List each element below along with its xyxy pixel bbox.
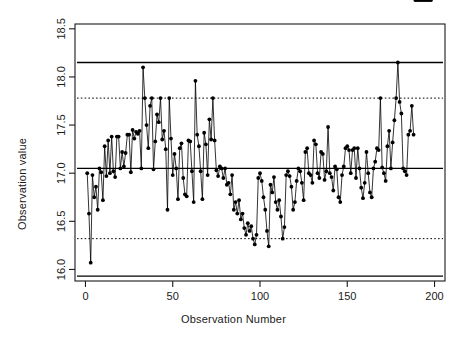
data-point-marker [300, 181, 304, 185]
data-point-marker [98, 166, 102, 170]
data-point-marker [281, 237, 285, 241]
data-point-marker [148, 104, 152, 108]
data-point-marker [108, 171, 112, 175]
x-tick-label: 50 [167, 290, 179, 302]
y-tick-label: 16.5 [55, 211, 67, 232]
data-point-marker [211, 96, 215, 100]
data-point-marker [260, 179, 264, 183]
data-point-marker [335, 167, 339, 171]
data-point-marker [96, 208, 100, 212]
data-point-marker [321, 152, 325, 156]
data-point-marker [396, 61, 400, 65]
data-point-marker [185, 194, 189, 198]
data-point-marker [232, 208, 236, 212]
data-point-marker [235, 212, 239, 216]
data-point-marker [324, 169, 328, 173]
data-point-marker [326, 125, 330, 129]
data-point-marker [276, 208, 280, 212]
data-point-marker [206, 173, 210, 177]
data-point-marker [180, 141, 184, 145]
data-point-marker [288, 174, 292, 178]
data-point-marker [317, 176, 321, 180]
data-point-marker [365, 150, 369, 154]
data-point-marker [145, 123, 149, 127]
data-point-marker [85, 171, 89, 175]
data-point-marker [171, 173, 175, 177]
data-point-marker [159, 96, 163, 100]
plot-area: 16.016.517.017.518.018.5050100150200 [0, 0, 467, 347]
data-point-marker [138, 129, 142, 133]
data-point-marker [234, 200, 238, 204]
data-point-marker [99, 170, 103, 174]
data-point-marker [394, 96, 398, 100]
data-point-marker [368, 191, 372, 195]
data-point-marker [349, 171, 353, 175]
control-chart-figure: 16.016.517.017.518.018.5050100150200 Obs… [0, 0, 467, 347]
x-tick-label: 100 [251, 290, 269, 302]
data-point-marker [398, 100, 402, 104]
data-point-marker [330, 175, 334, 179]
data-point-marker [373, 160, 377, 164]
data-point-marker [153, 140, 157, 144]
data-point-marker [181, 176, 185, 180]
data-point-marker [293, 200, 297, 204]
data-point-marker [265, 229, 269, 233]
data-point-marker [340, 173, 344, 177]
data-point-marker [227, 181, 231, 185]
data-point-marker [209, 138, 213, 142]
data-point-marker [157, 120, 161, 124]
data-point-marker [267, 244, 271, 248]
data-point-marker [237, 198, 241, 202]
data-point-marker [377, 148, 381, 152]
data-point-marker [309, 173, 313, 177]
y-axis-title: Observation value [16, 138, 28, 230]
data-point-marker [253, 243, 257, 247]
data-point-marker [131, 128, 135, 132]
data-point-marker [242, 226, 246, 230]
data-point-marker [412, 133, 416, 137]
y-tick-label: 17.5 [55, 114, 67, 135]
data-point-marker [101, 198, 105, 202]
data-point-marker [384, 179, 388, 183]
data-point-marker [155, 113, 159, 117]
data-point-marker [272, 175, 276, 179]
data-point-marker [214, 168, 218, 172]
data-point-marker [403, 169, 407, 173]
data-point-marker [228, 192, 232, 196]
data-point-marker [290, 185, 294, 189]
data-point-marker [91, 173, 95, 177]
data-point-marker [391, 140, 395, 144]
data-point-marker [269, 183, 273, 187]
y-tick-label: 17.0 [55, 162, 67, 183]
y-tick-label: 18.5 [55, 18, 67, 39]
data-point-marker [167, 96, 171, 100]
x-tick-label: 0 [82, 290, 88, 302]
data-point-marker [361, 196, 365, 200]
data-point-marker [204, 142, 208, 146]
data-point-marker [405, 173, 409, 177]
data-point-marker [223, 166, 227, 170]
data-point-marker [195, 133, 199, 137]
data-point-marker [169, 137, 173, 141]
data-point-marker [241, 212, 245, 216]
data-point-marker [94, 185, 98, 189]
data-point-marker [127, 133, 131, 137]
data-point-marker [286, 169, 290, 173]
data-point-marker [386, 144, 390, 148]
data-point-marker [150, 96, 154, 100]
data-point-marker [89, 261, 93, 265]
data-point-marker [92, 195, 96, 199]
data-point-marker [305, 146, 309, 150]
data-point-marker [152, 167, 156, 171]
data-point-marker [197, 144, 201, 148]
data-point-marker [279, 215, 283, 219]
data-point-marker [345, 144, 349, 148]
data-point-marker [239, 218, 243, 222]
data-point-marker [310, 181, 314, 185]
data-point-marker [122, 165, 126, 169]
data-point-marker [139, 166, 143, 170]
data-point-marker [220, 166, 224, 170]
data-point-marker [408, 129, 412, 133]
data-point-marker [213, 139, 217, 143]
data-point-marker [277, 198, 281, 202]
